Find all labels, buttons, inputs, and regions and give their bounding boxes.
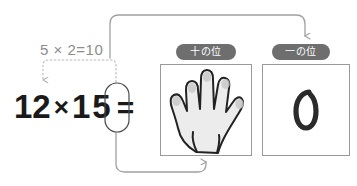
circled-digit-oval bbox=[105, 83, 129, 132]
handwritten-zero-glyph bbox=[262, 64, 350, 156]
handwritten-zero-wrap bbox=[262, 64, 350, 156]
badge-tens-place: 十の位 bbox=[176, 44, 236, 60]
hand-five-fingers-icon bbox=[166, 66, 246, 154]
diagram-canvas: 5 × 2=10 12×15= 十の位 一の位 bbox=[0, 0, 357, 186]
badge-ones-place: 一の位 bbox=[272, 44, 330, 60]
hand-illustration-wrap bbox=[166, 66, 246, 154]
